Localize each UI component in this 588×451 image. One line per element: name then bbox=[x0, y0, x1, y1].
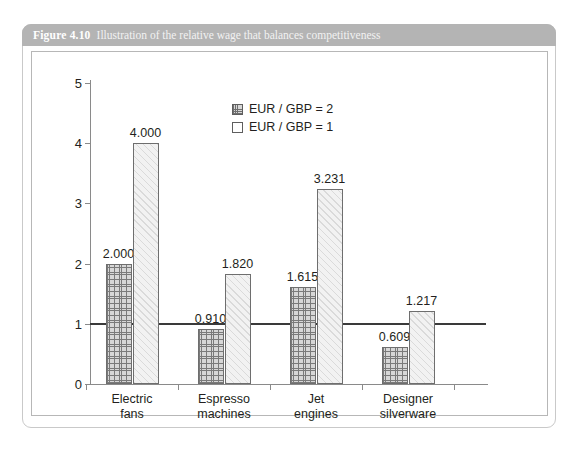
bar-series-a-0 bbox=[106, 264, 132, 384]
y-tick-label: 5 bbox=[42, 76, 82, 91]
bar-value-label: 4.000 bbox=[130, 126, 161, 140]
bar-series-b-3 bbox=[409, 311, 435, 384]
bar-series-b-1 bbox=[225, 274, 251, 384]
category-label-2: Jetengines bbox=[294, 392, 338, 422]
category-label-line: Espresso bbox=[197, 392, 251, 407]
figure-number: Figure 4.10 bbox=[33, 29, 91, 41]
category-label-line: Designer bbox=[380, 392, 436, 407]
bar-value-label: 0.910 bbox=[195, 312, 226, 326]
x-tick-mark bbox=[454, 384, 455, 390]
bar-series-b-0 bbox=[133, 143, 159, 384]
y-tick-label: 0 bbox=[42, 377, 82, 392]
x-tick-mark bbox=[362, 384, 363, 390]
x-tick-mark bbox=[270, 384, 271, 390]
y-tick-label: 2 bbox=[42, 256, 82, 271]
bar-value-label: 2.000 bbox=[103, 247, 134, 261]
bar-series-a-1 bbox=[198, 329, 224, 384]
legend-item-series-a: EUR / GBP = 2 bbox=[232, 100, 333, 118]
bar-series-a-2 bbox=[290, 287, 316, 384]
legend-label-series-a: EUR / GBP = 2 bbox=[249, 102, 333, 116]
x-tick-mark bbox=[178, 384, 179, 390]
y-tick-label: 1 bbox=[42, 316, 82, 331]
category-label-line: machines bbox=[197, 407, 251, 422]
chart-legend: EUR / GBP = 2 EUR / GBP = 1 bbox=[232, 100, 333, 136]
y-tick-mark bbox=[85, 143, 91, 144]
y-tick-mark bbox=[85, 203, 91, 204]
chart-plot-area: 012345 2.0000.9101.6150.6094.0001.8203.2… bbox=[31, 51, 548, 416]
category-label-line: engines bbox=[294, 407, 338, 422]
bar-value-label: 1.217 bbox=[406, 294, 437, 308]
legend-swatch-icon-series-a bbox=[232, 104, 243, 115]
bar-value-label: 3.231 bbox=[314, 172, 345, 186]
bar-series-b-2 bbox=[317, 189, 343, 384]
category-label-line: silverware bbox=[380, 407, 436, 422]
y-axis bbox=[90, 80, 91, 384]
category-label-0: Electricfans bbox=[112, 392, 153, 422]
bar-series-a-3 bbox=[382, 347, 408, 384]
x-axis bbox=[90, 384, 488, 385]
category-label-3: Designersilverware bbox=[380, 392, 436, 422]
legend-swatch-icon-series-b bbox=[232, 122, 243, 133]
bar-value-label: 0.609 bbox=[379, 330, 410, 344]
y-tick-label: 3 bbox=[42, 196, 82, 211]
category-label-line: Electric bbox=[112, 392, 153, 407]
bar-value-label: 1.615 bbox=[287, 270, 318, 284]
y-tick-mark bbox=[85, 264, 91, 265]
category-label-line: Jet bbox=[294, 392, 338, 407]
y-tick-label: 4 bbox=[42, 136, 82, 151]
figure-caption: Illustration of the relative wage that b… bbox=[97, 29, 381, 41]
category-label-1: Espressomachines bbox=[197, 392, 251, 422]
figure-card: Figure 4.10 Illustration of the relative… bbox=[22, 24, 556, 428]
bar-value-label: 1.820 bbox=[222, 257, 253, 271]
category-label-line: fans bbox=[112, 407, 153, 422]
x-tick-mark bbox=[86, 384, 87, 390]
legend-item-series-b: EUR / GBP = 1 bbox=[232, 118, 333, 136]
y-tick-mark bbox=[85, 83, 91, 84]
legend-label-series-b: EUR / GBP = 1 bbox=[249, 120, 333, 134]
figure-header: Figure 4.10 Illustration of the relative… bbox=[22, 24, 556, 46]
